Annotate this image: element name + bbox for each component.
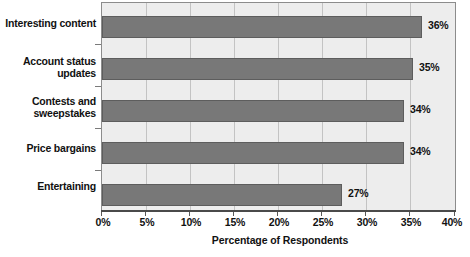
y-axis-label-entertaining: Entertaining	[0, 180, 96, 192]
bar-interesting-content	[102, 16, 422, 38]
x-axis-tick-label-5: 5%	[127, 216, 167, 228]
value-label-entertaining: 27%	[348, 187, 368, 199]
x-axis-title-text: Percentage of Respondents	[212, 234, 348, 246]
bar-chart: Interesting content Account status updat…	[0, 0, 470, 257]
x-axis-tick-label-15: 15%	[215, 216, 255, 228]
x-axis-tick-label-40: 40%	[432, 216, 470, 228]
x-axis-tick-label-10: 10%	[171, 216, 211, 228]
value-label-contests-and-sweepstakes: 34%	[410, 103, 430, 115]
value-label-price-bargains: 34%	[410, 145, 430, 157]
y-axis-label-account-status-updates: Account status updates	[0, 55, 96, 79]
y-axis-label-interesting-content: Interesting content	[0, 17, 96, 29]
y-axis-label-contests-and-sweepstakes: Contests and sweepstakes	[0, 95, 96, 119]
x-axis-line	[101, 210, 456, 212]
plot-area	[101, 2, 456, 211]
x-axis-title: Percentage of Respondents	[0, 234, 470, 246]
x-axis-tick-label-35: 35%	[391, 216, 431, 228]
x-axis-tick-label-25: 25%	[303, 216, 343, 228]
x-axis-tick-label-0: 0%	[83, 216, 123, 228]
bar-entertaining	[102, 184, 342, 206]
y-axis-label-price-bargains: Price bargains	[0, 142, 96, 154]
x-axis-tick-label-20: 20%	[259, 216, 299, 228]
bar-price-bargains	[102, 142, 404, 164]
bar-account-status-updates	[102, 58, 413, 80]
value-label-account-status-updates: 35%	[419, 61, 439, 73]
x-axis-tick-label-30: 30%	[347, 216, 387, 228]
y-axis-category-labels: Interesting content Account status updat…	[0, 0, 96, 212]
bar-contests-and-sweepstakes	[102, 100, 404, 122]
value-label-interesting-content: 36%	[428, 19, 448, 31]
